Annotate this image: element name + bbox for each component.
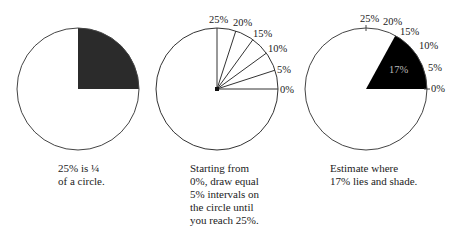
svg-text:10%: 10% — [268, 43, 288, 54]
line-10 — [217, 53, 266, 89]
panel-1-circle — [17, 28, 139, 150]
caption-panel-3: Estimate where 17% lies and shade. — [330, 162, 417, 188]
shaded-label: 17% — [389, 64, 409, 75]
center-dot — [215, 87, 219, 91]
estimate-wedge — [366, 36, 427, 89]
svg-text:20%: 20% — [233, 17, 253, 28]
svg-text:5%: 5% — [277, 64, 291, 75]
line-15 — [217, 40, 253, 89]
svg-text:0%: 0% — [280, 84, 294, 95]
line-5 — [217, 70, 275, 89]
quarter-wedge — [78, 28, 139, 89]
svg-text:5%: 5% — [428, 62, 442, 73]
svg-text:10%: 10% — [419, 40, 439, 51]
svg-text:0%: 0% — [431, 83, 445, 94]
caption-panel-2: Starting from 0%, draw equal 5% interval… — [190, 162, 259, 227]
panel-3-circle — [305, 25, 430, 150]
svg-text:25%: 25% — [209, 14, 229, 25]
line-20 — [217, 31, 236, 89]
svg-text:15%: 15% — [253, 28, 273, 39]
svg-text:25%: 25% — [360, 13, 380, 24]
svg-text:15%: 15% — [400, 26, 420, 37]
caption-panel-1: 25% is ¼ of a circle. — [58, 162, 105, 188]
